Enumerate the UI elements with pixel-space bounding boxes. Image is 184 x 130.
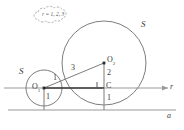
large-radius-below-label: 1	[107, 94, 111, 102]
small-circle-label: S	[19, 67, 24, 76]
small-center-label: O1	[32, 83, 40, 93]
geometry-diagram: r = 1, 2, 3 r a S S O1 O2 C 3 2 1 1 1	[0, 0, 184, 130]
large-center-label: O2	[107, 56, 115, 66]
small-radius-below-label: 1	[46, 93, 50, 101]
foot-point-label: C	[106, 82, 111, 90]
tangent-line-a-label: a	[167, 112, 171, 120]
small-radius-above-label: 1	[53, 74, 57, 82]
vertical-leg-length-label: 2	[107, 69, 111, 77]
axis-r-label: r	[170, 83, 173, 91]
right-angle-marker	[97, 82, 104, 88]
small-center-dot	[43, 87, 46, 90]
diagram-canvas	[0, 0, 184, 130]
small-center-subscript: 1	[38, 88, 41, 93]
large-circle-label: S	[141, 20, 146, 29]
large-center-subscript: 2	[113, 61, 116, 66]
axis-r-arrowhead	[162, 86, 168, 91]
hypotenuse-length-label: 3	[71, 64, 75, 72]
cloud-annotation-text: r = 1, 2, 3	[42, 12, 64, 18]
large-center-dot	[103, 62, 106, 65]
